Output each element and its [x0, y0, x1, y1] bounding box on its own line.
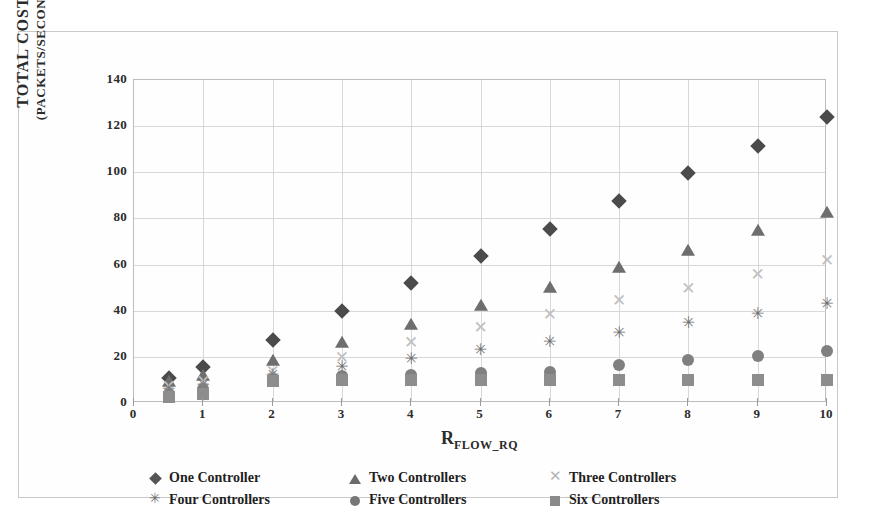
triangle-marker-icon	[543, 280, 557, 292]
triangle-marker-icon	[751, 224, 765, 236]
data-point	[273, 340, 284, 351]
x-axis-tick-label: 3	[321, 406, 361, 422]
data-point	[619, 380, 631, 392]
legend-item[interactable]: Six Controllers	[549, 492, 749, 508]
triangle-marker-icon	[404, 317, 418, 329]
circle-marker-icon	[752, 350, 764, 362]
x-gridline	[203, 80, 204, 401]
data-point	[827, 117, 838, 128]
triangle-marker-icon	[474, 298, 488, 310]
star-marker-icon: ✳	[474, 342, 487, 358]
data-point	[688, 251, 702, 263]
square-marker-icon	[163, 391, 175, 403]
data-point	[481, 256, 492, 267]
x-gridline	[619, 80, 620, 401]
star-marker-icon: ✳	[404, 351, 417, 367]
cross-marker-icon: ✕	[681, 279, 695, 296]
diamond-marker-icon	[334, 303, 350, 319]
cross-legend-icon: ✕	[549, 472, 562, 485]
legend-item[interactable]: One Controller	[149, 470, 349, 486]
data-point	[688, 173, 699, 184]
data-point	[550, 380, 562, 392]
square-marker-icon	[405, 374, 417, 386]
data-point	[758, 146, 769, 157]
data-point	[203, 394, 215, 406]
data-point	[619, 268, 633, 280]
x-axis-tick-label: 2	[252, 406, 292, 422]
x-gridline	[688, 80, 689, 401]
legend-item[interactable]: ✳Four Controllers	[149, 492, 349, 508]
data-point	[758, 356, 770, 368]
y-axis-tick-label: 40	[85, 302, 127, 318]
square-marker-icon	[821, 374, 833, 386]
triangle-marker-icon	[612, 261, 626, 273]
y-axis-tick-label: 60	[85, 256, 127, 272]
x-axis-title-base: R	[441, 428, 454, 448]
diamond-marker-icon	[542, 221, 558, 237]
square-marker-icon	[613, 374, 625, 386]
y-gridline	[134, 172, 825, 173]
x-axis-tick-label: 9	[737, 406, 777, 422]
data-point	[827, 213, 841, 225]
y-axis-title-main: TOTAL COST	[14, 0, 31, 108]
data-point	[827, 380, 839, 392]
star-marker-icon: ✳	[543, 334, 556, 350]
figure-frame: TOTAL COST (PACKETS/SECOND) 020406080100…	[18, 31, 838, 498]
star-marker-icon: ✳	[682, 315, 695, 331]
diamond-marker-icon	[819, 110, 835, 126]
triangle-marker-icon	[681, 244, 695, 256]
data-point: ✳	[550, 342, 563, 358]
star-legend-icon: ✳	[149, 494, 162, 507]
y-axis-tick-label: 80	[85, 209, 127, 225]
diamond-marker-icon	[265, 332, 281, 348]
data-point	[758, 380, 770, 392]
x-axis-tick-label: 8	[667, 406, 707, 422]
x-axis-tick-label: 0	[113, 406, 153, 422]
legend-item[interactable]: Two Controllers	[349, 470, 549, 486]
x-axis-tick-label: 4	[390, 406, 430, 422]
y-axis-tick-label: 140	[85, 71, 127, 87]
data-point	[758, 231, 772, 243]
legend-item-label: Two Controllers	[369, 470, 466, 486]
x-axis-tick-label: 7	[598, 406, 638, 422]
triangle-marker-icon	[820, 205, 834, 217]
x-axis-tick-label: 6	[529, 406, 569, 422]
y-axis-tick-label: 120	[85, 117, 127, 133]
cross-marker-icon: ✕	[612, 292, 626, 309]
legend-item-label: Five Controllers	[369, 492, 466, 508]
data-point: ✳	[758, 314, 771, 330]
x-axis-tick-label: 10	[806, 406, 846, 422]
cross-marker-icon: ✕	[751, 265, 765, 282]
y-axis-title: TOTAL COST (PACKETS/SECOND)	[13, 0, 49, 162]
y-gridline	[134, 218, 825, 219]
legend-item[interactable]: ✕Three Controllers	[549, 470, 749, 486]
data-point: ✕	[827, 260, 841, 277]
data-point: ✳	[688, 323, 701, 339]
diamond-marker-icon	[750, 139, 766, 155]
y-axis-tick-labels: 020406080100120140	[75, 79, 127, 402]
cross-marker-icon: ✕	[543, 306, 557, 323]
y-axis-tick-label: 100	[85, 163, 127, 179]
square-marker-icon	[336, 374, 348, 386]
y-gridline	[134, 126, 825, 127]
x-axis-tick-mark	[826, 398, 827, 406]
x-axis-tick-mark	[202, 398, 203, 406]
chart-legend: One ControllerTwo Controllers✕Three Cont…	[149, 470, 749, 508]
square-marker-icon	[475, 374, 487, 386]
legend-item[interactable]: Five Controllers	[349, 492, 549, 508]
data-point	[411, 283, 422, 294]
star-marker-icon: ✳	[751, 306, 764, 322]
diamond-marker-icon	[611, 193, 627, 209]
data-point: ✕	[550, 314, 564, 331]
data-point: ✕	[758, 274, 772, 291]
x-axis-tick-mark	[549, 398, 550, 406]
circle-marker-icon	[821, 345, 833, 357]
data-point: ✳	[827, 304, 840, 320]
data-point: ✕	[619, 300, 633, 317]
data-point	[688, 380, 700, 392]
x-axis-tick-mark	[272, 398, 273, 406]
x-axis-tick-mark	[757, 398, 758, 406]
data-point: ✳	[481, 350, 494, 366]
square-marker-icon	[267, 375, 279, 387]
data-point	[688, 360, 700, 372]
